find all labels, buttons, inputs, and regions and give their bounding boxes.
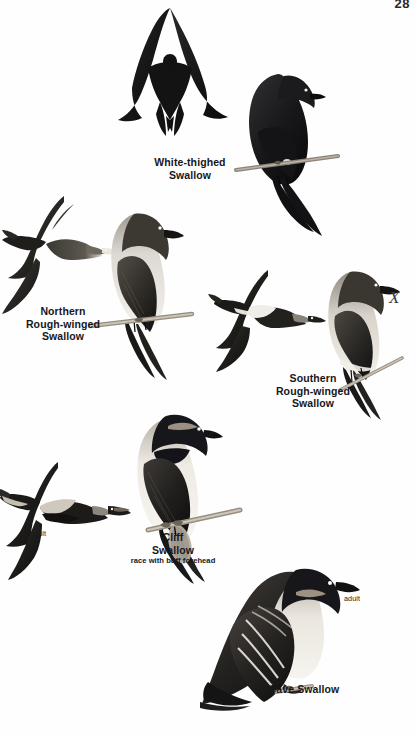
caption-white-thighed-swallow: White-thighed Swallow [134, 156, 246, 181]
cliff-swallow-flight-figure [6, 456, 146, 591]
page-number: 28 [395, 0, 410, 11]
southern-rw-flight-silhouette [208, 270, 326, 372]
age-label-cave: adult [344, 594, 360, 603]
caption-line-3: Swallow [292, 397, 334, 409]
white-thighed-perched-body [249, 74, 326, 236]
caption-line-1: Northern [40, 305, 85, 317]
white-thighed-swallow-perched-figure [218, 62, 348, 222]
caption-line-2: Rough-winged [276, 385, 350, 397]
caption-southern-rough-winged-swallow: Southern Rough-winged Swallow [252, 372, 374, 410]
handwritten-x-mark: X [389, 288, 399, 308]
caption-line-2: Rough-winged [26, 318, 100, 330]
caption-line-1: White-thighed [154, 156, 225, 168]
caption-line-1: Cave Swallow [269, 683, 340, 695]
caption-cave-swallow: Cave Swallow [240, 683, 368, 696]
age-label-cliff-perched: adult [198, 429, 214, 438]
caption-line-2: Swallow [169, 169, 211, 181]
age-label-cliff-flight: adult [30, 529, 46, 538]
white-thighed-swallow-flight-figure [104, 2, 234, 157]
caption-northern-rough-winged-swallow: Northern Rough-winged Swallow [8, 305, 118, 343]
white-thighed-flight-silhouette [118, 8, 228, 136]
caption-line-3: Swallow [42, 330, 84, 342]
northern-rw-perched-body [111, 214, 184, 380]
caption-line-1: Southern [290, 372, 337, 384]
caption-line-2: Swallow [152, 544, 194, 556]
northern-rough-winged-perched-figure [88, 202, 198, 377]
caption-line-1: Cliff [163, 531, 184, 543]
field-guide-page: 28 [0, 0, 418, 734]
